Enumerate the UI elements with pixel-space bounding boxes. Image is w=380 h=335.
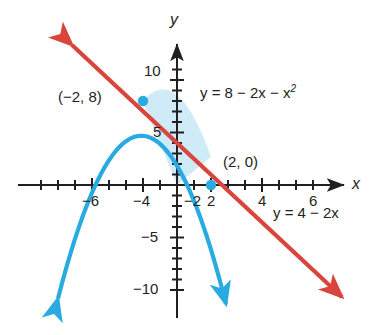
intersection-point-right-marker <box>206 180 216 190</box>
y-tick-label-10: 10 <box>144 63 161 78</box>
linear-function-curve <box>72 45 342 297</box>
y-tick-label-neg5: −5 <box>141 229 158 244</box>
coordinate-plane-svg <box>0 0 380 335</box>
intersection-point-right-label: (2, 0) <box>223 154 258 169</box>
x-tick-label-neg2: −2 <box>184 193 201 208</box>
graph-figure: x y −6 −4 −2 2 4 6 10 5 −5 −10 (−2, 8) (… <box>0 0 380 335</box>
line-equation-label: y = 4 − 2x <box>273 205 339 220</box>
intersection-point-left-label: (−2, 8) <box>58 89 102 104</box>
y-axis-label: y <box>170 12 178 28</box>
x-tick-label-4: 4 <box>258 193 266 208</box>
intersection-point-left-marker <box>138 96 148 106</box>
y-tick-label-neg10: −10 <box>133 281 158 296</box>
y-tick-label-5: 5 <box>153 124 161 139</box>
x-tick-label-2: 2 <box>207 193 215 208</box>
parabola-equation-text: y = 8 − 2x − x <box>200 84 290 101</box>
parabola-equation-exponent: 2 <box>290 83 296 94</box>
x-tick-label-neg6: −6 <box>82 193 99 208</box>
x-tick-label-neg4: −4 <box>133 193 150 208</box>
parabola-equation-label: y = 8 − 2x − x2 <box>200 85 296 100</box>
x-axis-label: x <box>352 176 360 192</box>
